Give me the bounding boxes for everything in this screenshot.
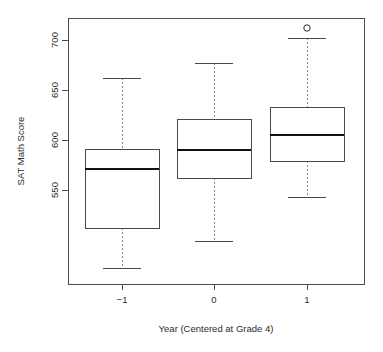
outlier-point [304, 25, 310, 31]
x-tick-label: 0 [211, 294, 216, 305]
boxplot-box [270, 25, 344, 197]
y-axis-ticks: 550600650700 [49, 32, 69, 198]
boxplot-box [177, 63, 251, 241]
x-axis-ticks: −101 [117, 284, 310, 305]
y-axis-label: SAT Math Score [15, 117, 26, 186]
box-iqr [177, 119, 251, 178]
y-tick-label: 550 [49, 182, 60, 198]
x-axis-label: Year (Centered at Grade 4) [159, 323, 274, 334]
boxplot-svg: 550600650700 −101 SAT Math Score Year (C… [0, 0, 383, 352]
plot-frame [69, 19, 365, 285]
box-iqr [85, 149, 159, 228]
y-tick-label: 600 [49, 132, 60, 148]
x-tick-label: 1 [304, 294, 309, 305]
box-group [85, 25, 344, 268]
boxplot-figure: 550600650700 −101 SAT Math Score Year (C… [0, 0, 383, 352]
x-tick-label: −1 [117, 294, 128, 305]
boxplot-box [85, 78, 159, 268]
y-tick-label: 650 [49, 82, 60, 98]
y-tick-label: 700 [49, 32, 60, 48]
